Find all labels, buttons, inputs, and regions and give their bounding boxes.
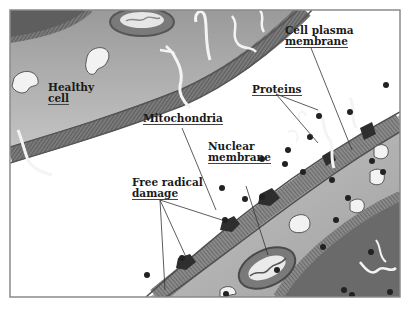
label-cell-plasma-membrane: Cell plasma membrane bbox=[285, 25, 354, 48]
label-nuclear-membrane: Nuclear membrane bbox=[208, 141, 271, 164]
vesicle bbox=[374, 145, 388, 159]
protein bbox=[288, 131, 298, 142]
label-mitochondria: Mitochondria bbox=[143, 113, 223, 125]
label-proteins: Proteins bbox=[252, 84, 302, 96]
label-healthy-cell: Healthy cell bbox=[48, 82, 94, 105]
protein bbox=[299, 112, 306, 120]
vesicle bbox=[289, 215, 310, 233]
label-free-radical-damage: Free radical damage bbox=[132, 177, 203, 200]
vesicle bbox=[350, 199, 364, 213]
truncated-caption bbox=[10, 303, 400, 314]
